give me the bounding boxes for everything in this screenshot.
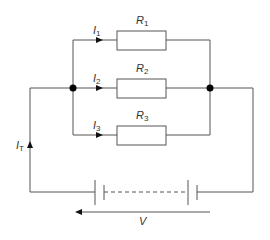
label-i3: I3 bbox=[93, 120, 101, 133]
label-r3-main: R bbox=[136, 109, 144, 121]
label-r3-sub: 3 bbox=[144, 114, 148, 123]
label-it: IT bbox=[16, 140, 24, 153]
label-r1: R1 bbox=[136, 15, 148, 28]
label-r2: R2 bbox=[136, 63, 148, 76]
junction-node-right bbox=[207, 85, 214, 92]
label-it-sub: T bbox=[19, 144, 24, 153]
current-arrow-it bbox=[27, 141, 33, 148]
resistor-r3 bbox=[117, 126, 166, 145]
label-voltage: V bbox=[139, 216, 146, 227]
resistor-r2 bbox=[117, 79, 166, 98]
label-i3-sub: 3 bbox=[96, 124, 100, 133]
label-r1-sub: 1 bbox=[144, 19, 148, 28]
label-i1: I1 bbox=[93, 25, 101, 38]
label-r3: R3 bbox=[136, 110, 148, 123]
label-i2-sub: 2 bbox=[96, 77, 100, 86]
junction-node-left bbox=[70, 85, 77, 92]
label-i2: I2 bbox=[93, 73, 101, 86]
label-i1-sub: 1 bbox=[96, 29, 100, 38]
circuit-diagram bbox=[0, 0, 270, 240]
label-r1-main: R bbox=[136, 14, 144, 26]
label-r2-sub: 2 bbox=[144, 67, 148, 76]
voltage-arrow-head bbox=[75, 209, 82, 215]
label-r2-main: R bbox=[136, 62, 144, 74]
resistor-r1 bbox=[117, 31, 166, 50]
